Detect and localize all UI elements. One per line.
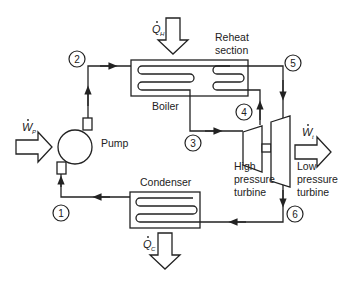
state-point-4-label: 4: [241, 107, 247, 118]
svg-text:C: C: [151, 246, 156, 252]
turbine-shaft: [262, 144, 271, 152]
hp-turbine-label-line3: turbine: [234, 186, 266, 198]
lp-turbine-label-line1: Low: [297, 160, 317, 172]
reheat-label-line2: section: [215, 44, 248, 56]
state-point-2-label: 2: [74, 54, 80, 65]
work-pump-arrow: [16, 132, 52, 162]
state-point-6-label: 6: [292, 209, 298, 220]
condenser-coil: [136, 198, 200, 222]
svg-text:t: t: [312, 134, 314, 140]
lp-turbine-label-line3: turbine: [297, 186, 329, 198]
hp-turbine-label-line1: High: [234, 160, 256, 172]
pipe-reheat-5: [248, 66, 283, 118]
pipe-2-boiler: [88, 66, 131, 118]
svg-text:P: P: [32, 129, 36, 135]
svg-text:H: H: [160, 31, 165, 37]
work-pump-symbol: W P: [22, 119, 36, 135]
work-turbine-symbol: W t: [302, 124, 314, 140]
hp-turbine-label-line2: pressure: [234, 173, 275, 185]
boiler-label: Boiler: [152, 100, 179, 112]
state-point-3-label: 3: [190, 138, 196, 149]
condenser-label: Condenser: [140, 176, 192, 188]
pipe-boiler-3: [190, 96, 243, 131]
reheat-rankine-cycle-diagram: 2 3 4 5 6 1 Boiler Reheat section Pump C…: [0, 0, 349, 284]
state-point-5-label: 5: [290, 58, 296, 69]
reheat-label-line1: Reheat: [215, 31, 249, 43]
heat-in-symbol: Q H: [152, 21, 165, 37]
state-point-1-label: 1: [58, 208, 64, 219]
boiler-coil: [138, 66, 230, 96]
pump: [57, 118, 92, 174]
pipe-condenser-1: [61, 174, 130, 197]
heat-out-symbol: Q C: [143, 236, 156, 252]
lp-turbine-label-line2: pressure: [297, 173, 338, 185]
pump-label: Pump: [101, 137, 129, 149]
